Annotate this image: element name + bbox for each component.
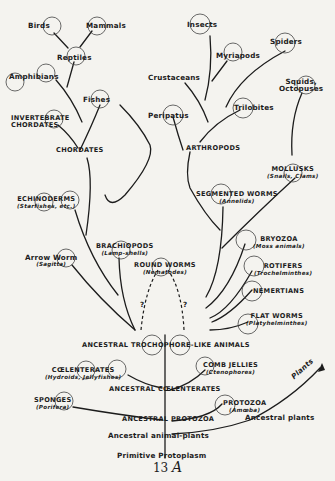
node-round-worms: ROUND WORMS (Nematodes) bbox=[134, 262, 196, 275]
node-rotifers: ROTIFERS (Trochelminthes) bbox=[254, 263, 312, 276]
node-segmented-worms: SEGMENTED WORMS (Annelids) bbox=[196, 191, 278, 204]
sublabel: (Snails, Clams) bbox=[267, 174, 319, 180]
node-bryozoa: BRYOZOA (Moss animals) bbox=[253, 236, 305, 249]
node-insects: Insects bbox=[187, 21, 217, 28]
sublabel: (Starfishes, etc.) bbox=[17, 204, 76, 210]
label: MOLLUSKS bbox=[271, 165, 314, 173]
node-ancestral-coelenterates: ANCESTRAL CŒLENTERATES bbox=[109, 386, 221, 393]
question-mark-right: ? bbox=[183, 301, 187, 308]
sublabel: (Trochelminthes) bbox=[254, 271, 312, 277]
node-nemertians: NEMERTIANS bbox=[253, 288, 304, 295]
label: FLAT WORMS bbox=[251, 312, 303, 320]
node-mammals: Mammals bbox=[86, 22, 126, 29]
sublabel: (Porifera) bbox=[34, 405, 71, 411]
node-peripatus: Peripatus bbox=[148, 112, 189, 119]
node-ancestral-trochophore: ANCESTRAL TROCHOPHORE-LIKE ANIMALS bbox=[82, 342, 250, 349]
node-birds: Birds bbox=[28, 22, 50, 29]
page-number-value: 13 bbox=[153, 461, 168, 475]
sublabel: (Annelids) bbox=[196, 199, 278, 205]
node-chordates: CHORDATES bbox=[56, 147, 104, 154]
node-flat-worms: FLAT WORMS (Platyhelminthes) bbox=[246, 313, 308, 326]
node-fishes: Fishes bbox=[83, 96, 110, 103]
page-number: 13 A bbox=[0, 459, 335, 475]
sublabel: (Nematodes) bbox=[134, 270, 196, 276]
node-trilobites: Trilobites bbox=[234, 104, 274, 111]
node-ancestral-plants: Ancestral plants bbox=[245, 414, 314, 421]
node-amphibians: Amphibians bbox=[9, 73, 59, 80]
node-squids-octopuses: Squids, Octopuses bbox=[279, 78, 323, 92]
label: CŒLENTERATES bbox=[52, 366, 115, 374]
node-protozoa: PROTOZOA (Amœba) bbox=[223, 400, 266, 413]
node-coelenterates: CŒLENTERATES (Hydroids, Jellyfishes) bbox=[45, 367, 121, 380]
node-arthropods: ARTHROPODS bbox=[186, 145, 240, 152]
label: BRYOZOA bbox=[260, 235, 297, 243]
label: ROTIFERS bbox=[264, 262, 303, 270]
node-crustaceans: Crustaceans bbox=[148, 74, 200, 81]
sublabel: (Lamp-shells) bbox=[96, 251, 154, 257]
node-arrow-worm: Arrow Worm (Sagitta) bbox=[25, 254, 77, 268]
node-ancestral-protozoa: ANCESTRAL PROTOZOA bbox=[122, 416, 214, 423]
label: PROTOZOA bbox=[223, 399, 266, 407]
question-mark-left: ? bbox=[140, 301, 144, 308]
label: SEGMENTED WORMS bbox=[196, 190, 278, 198]
sublabel: (Moss animals) bbox=[253, 244, 305, 250]
label-line-2: CHORDATES bbox=[11, 122, 70, 129]
node-reptiles: Reptiles bbox=[57, 54, 92, 61]
label-line-2: Octopuses bbox=[279, 85, 323, 92]
page-letter: A bbox=[172, 459, 182, 475]
node-comb-jellies: COMB JELLIES (Ctenophores) bbox=[203, 362, 258, 375]
node-invertebrate-chordates: INVERTEBRATE CHORDATES bbox=[11, 115, 70, 128]
label: ROUND WORMS bbox=[134, 261, 196, 269]
node-brachiopods: BRACHIOPODS (Lamp-shells) bbox=[96, 243, 154, 256]
label: SPONGES bbox=[34, 396, 71, 404]
node-myriapods: Myriapods bbox=[216, 52, 260, 59]
sublabel: (Ctenophores) bbox=[203, 370, 258, 376]
node-echinoderms: ECHINODERMS (Starfishes, etc.) bbox=[17, 196, 76, 209]
node-ancestral-animal-plants: Ancestral animal-plants bbox=[108, 432, 209, 439]
sublabel: (Platyhelminthes) bbox=[246, 321, 308, 327]
label: BRACHIOPODS bbox=[96, 242, 154, 250]
node-mollusks: MOLLUSKS (Snails, Clams) bbox=[267, 166, 319, 179]
sublabel: (Sagitta) bbox=[25, 262, 77, 268]
node-spiders: Spiders bbox=[270, 38, 302, 45]
label: COMB JELLIES bbox=[203, 361, 258, 369]
sublabel: (Hydroids, Jellyfishes) bbox=[45, 375, 121, 381]
node-sponges: SPONGES (Porifera) bbox=[34, 397, 71, 410]
label: ECHINODERMS bbox=[17, 195, 75, 203]
